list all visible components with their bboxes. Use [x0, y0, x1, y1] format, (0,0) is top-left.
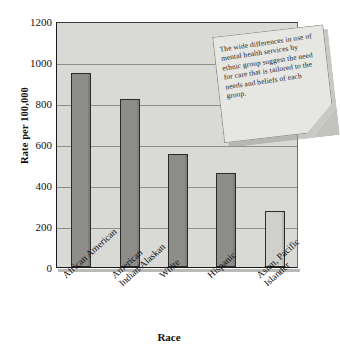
annotation-sticky-note: The wide differences in use of mental he… — [212, 24, 340, 148]
x-axis-tick-labels: African AmericanAmerican Indian/AlaskanW… — [0, 268, 338, 334]
bar — [168, 154, 188, 267]
x-axis-title: Race — [0, 331, 338, 343]
bar — [120, 99, 140, 267]
bar — [71, 73, 91, 267]
y-axis-tick-labels: 020040060080010001200 — [16, 16, 52, 272]
y-axis-tick-label: 200 — [16, 221, 52, 233]
y-axis-tick-label: 1000 — [16, 57, 52, 69]
y-axis-tick-label: 600 — [16, 139, 52, 151]
y-axis-tick-label: 1200 — [16, 16, 52, 28]
y-axis-tick-label: 800 — [16, 98, 52, 110]
y-axis-tick-label: 400 — [16, 180, 52, 192]
